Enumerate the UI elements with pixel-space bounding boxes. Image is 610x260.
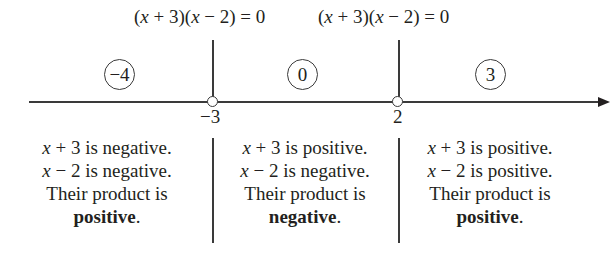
critical-line-upper-left — [212, 40, 214, 102]
critical-line-upper-right — [398, 40, 400, 102]
test-value-circle: −4 — [104, 59, 135, 90]
factor-sign-line: x + 3 is positive. — [215, 136, 395, 159]
equation-label-left: (x + 3)(x − 2) = 0 — [134, 6, 265, 28]
interval-explanation-middle: x + 3 is positive. x − 2 is negative. Th… — [215, 136, 395, 228]
number-line-axis — [29, 101, 604, 103]
interval-explanation-right: x + 3 is positive. x − 2 is positive. Th… — [400, 136, 580, 228]
eq-text: + 3)( — [149, 6, 191, 27]
test-value-circle: 0 — [287, 59, 318, 90]
factor-sign-line: x − 2 is negative. — [17, 159, 197, 182]
product-line: Their product is — [400, 182, 580, 205]
test-value-circle: 3 — [475, 59, 506, 90]
product-line: Their product is — [17, 182, 197, 205]
interval-explanation-left: x + 3 is negative. x − 2 is negative. Th… — [17, 136, 197, 228]
equation-label-right: (x + 3)(x − 2) = 0 — [318, 6, 449, 28]
tick-label-minus-3: −3 — [200, 106, 220, 128]
factor-sign-line: x − 2 is negative. — [215, 159, 395, 182]
product-line: Their product is — [215, 182, 395, 205]
product-sign: positive. — [400, 205, 580, 228]
eq-var: x — [191, 6, 199, 27]
product-sign: negative. — [215, 205, 395, 228]
eq-text: − 2) = 0 — [384, 6, 450, 27]
factor-sign-line: x + 3 is negative. — [17, 136, 197, 159]
eq-var: x — [324, 6, 332, 27]
tick-label-2: 2 — [393, 106, 403, 128]
eq-var: x — [375, 6, 383, 27]
eq-text: − 2) = 0 — [200, 6, 266, 27]
eq-text: + 3)( — [333, 6, 375, 27]
factor-sign-line: x + 3 is positive. — [400, 136, 580, 159]
eq-var: x — [140, 6, 148, 27]
product-sign: positive. — [17, 205, 197, 228]
interval-divider-left — [212, 138, 214, 243]
axis-arrow-icon — [598, 97, 610, 107]
factor-sign-line: x − 2 is positive. — [400, 159, 580, 182]
